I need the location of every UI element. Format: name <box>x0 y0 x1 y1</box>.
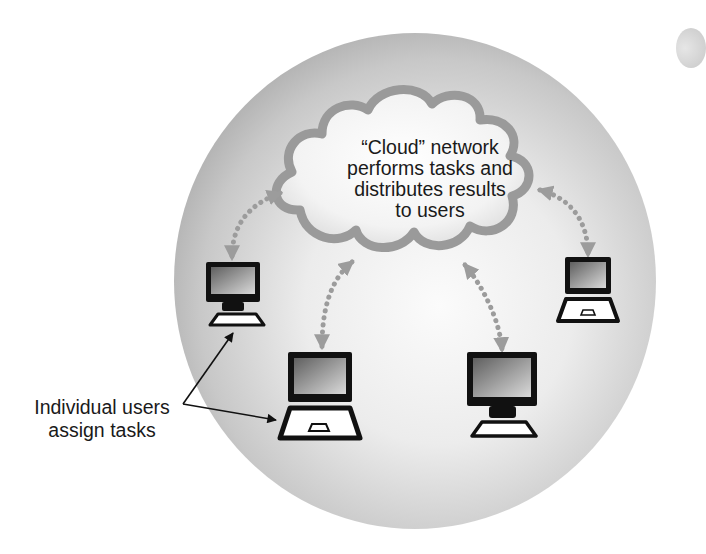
cloud-label: “Cloud” network performs tasks and distr… <box>300 137 560 221</box>
callout-label-line: assign tasks <box>17 419 187 442</box>
users-callout-label: Individual users assign tasks <box>17 396 187 442</box>
cloud-label-line: distributes results <box>300 179 560 200</box>
cloud-label-line: performs tasks and <box>300 158 560 179</box>
cloud-label-line: “Cloud” network <box>300 137 560 158</box>
callout-label-line: Individual users <box>17 396 187 419</box>
laptop-computer-icon <box>558 257 618 321</box>
laptop-computer-icon <box>280 352 360 438</box>
cloud-label-line: to users <box>300 200 560 221</box>
partial-sphere-edge <box>676 28 706 68</box>
